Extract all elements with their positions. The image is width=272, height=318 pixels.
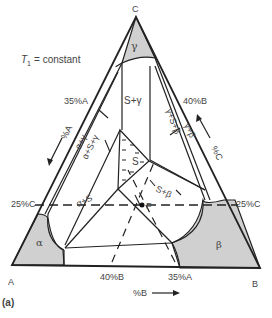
- phase-s-label: S: [132, 156, 139, 167]
- a35-dashed-line: [128, 170, 175, 262]
- condition-label: T1= constant: [21, 54, 81, 67]
- label-25c-right: 25%C: [236, 199, 261, 209]
- beta-region: [172, 200, 260, 268]
- label-40b-bottom: 40%B: [100, 272, 124, 282]
- vertex-c-label: C: [132, 4, 139, 14]
- vertex-b-label: B: [252, 279, 258, 289]
- vertex-a-label: A: [8, 277, 14, 287]
- region-s-beta-label: S+β: [154, 184, 173, 200]
- axis-pct-b-label: %B: [133, 288, 147, 298]
- label-25c-left: 25%C: [11, 199, 36, 209]
- phase-beta-label: β: [216, 239, 222, 250]
- label-35a-left: 35%A: [64, 96, 88, 106]
- ternary-phase-diagram: P C A B γ α β S S+γ α+γ α+S+γ γ+S+β γ+β …: [0, 0, 272, 318]
- label-40b-right: 40%B: [183, 96, 207, 106]
- label-35a-bottom: 35%A: [168, 272, 192, 282]
- phase-gamma-label: γ: [131, 40, 138, 53]
- axis-pct-c-label: %C: [209, 144, 225, 162]
- point-p-label: P: [146, 201, 152, 211]
- arrow-c-icon: [199, 118, 210, 138]
- panel-label: (a): [2, 297, 14, 308]
- arrow-a-icon: [50, 138, 62, 162]
- point-p: [140, 203, 145, 208]
- region-alpha-s-label: α+S: [75, 193, 94, 209]
- phase-alpha-label: α: [36, 237, 43, 248]
- region-s-gamma-label: S+γ: [124, 95, 142, 106]
